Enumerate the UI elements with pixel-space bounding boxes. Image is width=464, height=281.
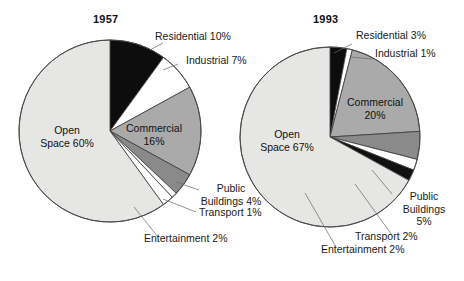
label-c1-commercial-line1: Commercial: [126, 122, 182, 134]
label-c2-open-space: Open Space 67%: [250, 128, 324, 154]
label-c1-open-space-line1: Open: [54, 124, 80, 136]
label-c2-public-buildings-line2: Buildings: [403, 203, 446, 215]
label-c2-transport: Transport 2%: [355, 230, 418, 243]
leader-c1-transport: [163, 199, 196, 212]
figure-canvas: 1957 Residential 10% Industrial 7% Comme…: [0, 0, 464, 281]
label-c1-open-space: Open Space 60%: [30, 124, 104, 150]
chart-title-1993: 1993: [313, 13, 338, 25]
chart-title-1957: 1957: [93, 13, 118, 25]
label-c2-commercial-line2: 20%: [364, 109, 385, 121]
label-c1-transport: Transport 1%: [199, 206, 262, 219]
label-c1-public-buildings: Public Buildings 4%: [200, 182, 262, 207]
label-c2-public-buildings-line1: Public: [410, 190, 439, 202]
label-c1-industrial: Industrial 7%: [186, 54, 247, 67]
label-c2-entertainment: Entertainment 2%: [321, 243, 404, 256]
label-c2-open-space-line1: Open: [274, 128, 300, 140]
label-c1-residential: Residential 10%: [155, 30, 231, 43]
label-c2-residential: Residential 3%: [356, 29, 426, 42]
label-c1-commercial-line2: 16%: [143, 135, 164, 147]
leader-c1-residential: [150, 43, 163, 50]
label-c2-commercial: Commercial 20%: [338, 96, 412, 122]
label-c1-commercial: Commercial 16%: [118, 122, 190, 148]
label-c2-public-buildings: Public Buildings 5%: [396, 190, 452, 228]
label-c1-public-buildings-line1: Public: [217, 182, 246, 194]
label-c2-industrial: Industrial 1%: [375, 47, 436, 60]
label-c1-entertainment: Entertainment 2%: [144, 232, 227, 245]
label-c2-open-space-line2: Space 67%: [260, 141, 314, 153]
label-c2-public-buildings-line3: 5%: [416, 215, 431, 227]
label-c1-open-space-line2: Space 60%: [40, 137, 94, 149]
label-c1-public-buildings-line2: Buildings 4%: [201, 195, 262, 207]
label-c2-commercial-line1: Commercial: [347, 96, 403, 108]
